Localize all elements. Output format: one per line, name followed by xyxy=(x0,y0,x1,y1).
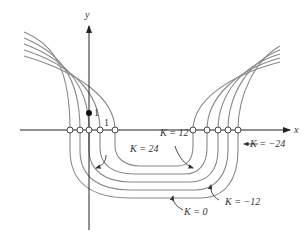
x-unit-label: 1 xyxy=(104,118,109,128)
label-k-0: K = 0 xyxy=(184,207,207,217)
label-k-24: K = 24 xyxy=(130,144,158,154)
curve-k-minus-12 xyxy=(24,38,280,190)
curve-k-12 xyxy=(24,50,280,174)
diagram-svg xyxy=(0,0,307,232)
label-k-minus-24: K = −24 xyxy=(250,139,285,149)
curve-k-minus-24 xyxy=(24,32,280,198)
y-unit-label: 1 xyxy=(94,108,99,118)
label-k-12: K = 12 xyxy=(160,128,188,138)
level-curves-diagram: y x 1 1 K = 24 K = 12 K = 0 K = −12 K = … xyxy=(0,0,307,232)
unit-point xyxy=(86,110,92,116)
x-axis-label: x xyxy=(294,125,298,135)
label-k-minus-12: K = −12 xyxy=(225,197,260,207)
y-axis-label: y xyxy=(85,10,89,20)
level-curves xyxy=(24,32,280,198)
